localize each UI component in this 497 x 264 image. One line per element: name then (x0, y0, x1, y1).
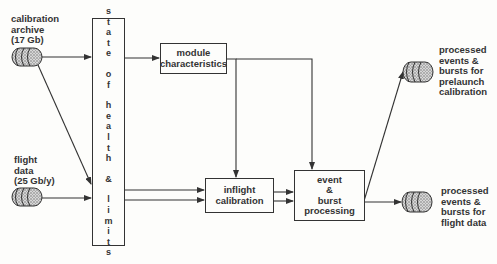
vertical-letter: t (107, 38, 110, 49)
label-line: calibration (439, 87, 487, 98)
label-line: bursts for (439, 66, 487, 77)
box-line: & (304, 185, 355, 196)
flight-output-label: processed events & bursts for flight dat… (441, 186, 489, 228)
tape-icon-calibration-archive (12, 48, 42, 66)
label-line: (17 Gb) (11, 35, 59, 46)
arrow-module-to-inflight (226, 59, 236, 177)
label-line: bursts for (441, 207, 489, 218)
inflight-calibration-box: inflight calibration (205, 178, 274, 213)
label-line: calibration (11, 14, 59, 25)
vertical-letter: h (106, 100, 112, 111)
box-line: module (160, 48, 227, 59)
state-of-health-box: stateofhealth&limits (92, 18, 125, 246)
box-line: calibration (215, 196, 263, 207)
vertical-letter: e (106, 48, 111, 59)
tape-icon-flight-output (402, 192, 432, 212)
vertical-letter: s (106, 247, 111, 258)
vertical-letter: t (107, 143, 110, 154)
label-line: processed (439, 45, 487, 56)
label-line: flight data (441, 218, 489, 229)
label-line: (25 Gb/y) (14, 176, 55, 187)
arrow-module-to-event (236, 59, 312, 169)
vertical-letter: t (107, 17, 110, 28)
connector-layer (0, 0, 497, 264)
vertical-letter: h (106, 153, 112, 164)
vertical-letter: t (107, 237, 110, 248)
tape-icon-prelaunch-output (403, 62, 433, 82)
vertical-letter: s (106, 6, 111, 17)
box-line: inflight (215, 185, 263, 196)
calibration-archive-label: calibration archive (17 Gb) (11, 14, 59, 46)
flight-data-label: flight data (25 Gb/y) (14, 155, 55, 187)
event-burst-processing-box: event & burst processing (294, 170, 365, 221)
vertical-letter: i (107, 205, 110, 216)
box-line: processing (304, 206, 355, 217)
label-line: flight (14, 155, 55, 166)
state-of-health-text: stateofhealth&limits (104, 6, 112, 258)
module-characteristics-box: module characteristics (160, 43, 227, 74)
vertical-letter: i (107, 226, 110, 237)
dataflow-diagram: calibration archive (17 Gb) flight data … (0, 0, 497, 264)
label-line: processed (441, 186, 489, 197)
vertical-letter: l (107, 194, 110, 205)
vertical-letter: e (106, 111, 111, 122)
vertical-letter: o (106, 69, 112, 80)
vertical-letter: a (106, 121, 111, 132)
vertical-letter: f (107, 80, 110, 91)
vertical-letter: l (107, 132, 110, 143)
prelaunch-output-label: processed events & bursts for prelaunch … (439, 45, 487, 98)
box-line: characteristics (160, 59, 227, 70)
tape-icon-flight-data (12, 188, 42, 206)
arrow-event-to-prelaunch (364, 72, 403, 201)
vertical-letter: m (104, 216, 112, 227)
vertical-letter: & (105, 174, 112, 185)
vertical-letter: a (106, 27, 111, 38)
